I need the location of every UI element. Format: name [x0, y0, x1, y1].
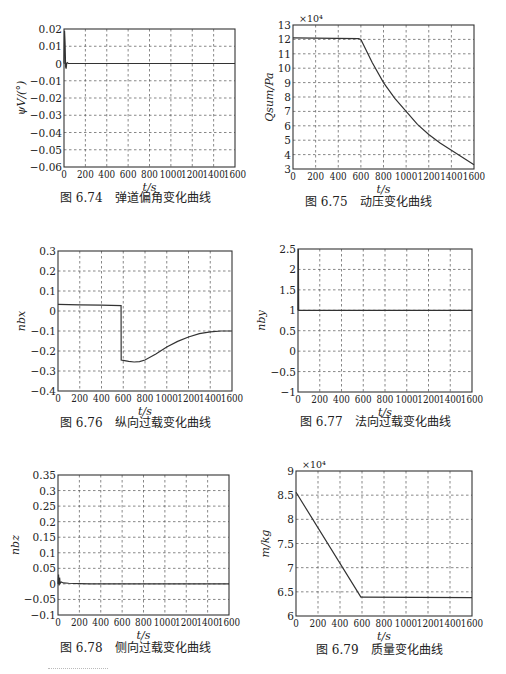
x-tick-label: 1000 — [395, 617, 417, 629]
cut-off-text-fragment — [48, 668, 108, 674]
chart-svg: 0200400600800100012001400160066.577.588.… — [0, 0, 506, 674]
figure-caption: 图 6.79 质量变化曲线 — [316, 640, 443, 657]
y-tick-label: 6 — [287, 610, 294, 622]
y-tick-label: 6.5 — [277, 586, 294, 598]
y-tick-label: 9 — [287, 465, 294, 477]
x-tick-label: 1400 — [439, 617, 461, 629]
y-tick-label: 7.5 — [277, 538, 294, 550]
x-tick-label: 1200 — [417, 617, 439, 629]
x-tick-label: 200 — [310, 617, 327, 629]
x-tick-label: 800 — [376, 617, 393, 629]
y-tick-label: 7 — [287, 562, 294, 574]
x-tick-label: 1600 — [461, 617, 483, 629]
y-axis-label: m/kg — [259, 530, 272, 558]
y-tick-label: 8.5 — [277, 489, 294, 501]
x-tick-label: 600 — [354, 617, 371, 629]
y-tick-label: 8 — [287, 513, 294, 525]
grid — [296, 471, 472, 616]
x-tick-label: 400 — [332, 617, 349, 629]
axis-multiplier: ×10⁴ — [302, 459, 326, 470]
x-tick-label: 0 — [293, 617, 299, 629]
